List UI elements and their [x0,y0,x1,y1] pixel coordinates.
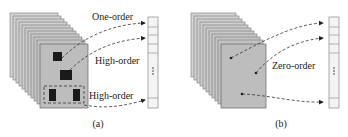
high-order-patch-right [73,89,80,101]
caption-b: (b) [275,118,287,130]
front-feature-map-b [221,44,266,108]
feature-vector-a [148,17,158,108]
label-one-order: One-order [92,11,134,22]
caption-a: (a) [92,118,103,130]
feature-map-stack-b [191,13,266,108]
high-order-patch-left [49,89,56,101]
one-order-patch [53,52,62,61]
label-high-order-2: High-order [89,90,134,101]
label-zero-order: Zero-order [272,60,316,71]
label-high-order-1: High-order [95,55,140,66]
high-order-patch [60,70,72,80]
panel-a: One-order High-order High-order (a) [10,11,158,130]
feature-vector-b [329,17,339,108]
feature-order-diagram: One-order High-order High-order (a) [0,0,348,137]
arrow-high-order-2 [84,100,145,107]
panel-b: Zero-order (b) [191,13,339,130]
